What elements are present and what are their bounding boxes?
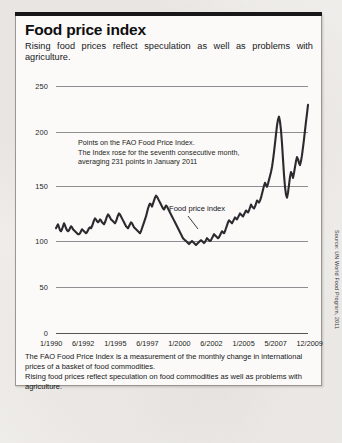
price-index-line-series [16, 14, 323, 386]
food-price-index-chart: 250 200 150 100 50 0 Points on the FAO F… [16, 14, 323, 386]
x-tick-5: 6/2002 [200, 339, 222, 348]
source-credit: Source: UN World Food Program, 2011 [334, 230, 340, 329]
figure-card: Food price index Rising food prices refl… [15, 14, 322, 386]
x-tick-8: 12/2009 [297, 339, 323, 348]
footnote-line-3: Rising food prices reflect speculation o… [25, 372, 313, 382]
x-axis-labels: 1/1990 6/1992 1/1995 6/1997 1/2000 6/200… [40, 339, 323, 348]
title-rule [15, 12, 322, 16]
x-tick-2: 1/1995 [104, 339, 126, 348]
figure-footnote: The FAO Food Price Index is a measuremen… [25, 352, 313, 392]
x-tick-3: 6/1997 [136, 339, 158, 348]
x-tick-7: 5/2007 [264, 339, 286, 348]
footnote-line-2: prices of a basket of food commodities. [25, 362, 313, 372]
page-background: Food price index Rising food prices refl… [0, 0, 342, 443]
x-tick-4: 1/2000 [168, 339, 190, 348]
footnote-line-4: agriculture. [25, 382, 313, 392]
x-tick-1: 6/1992 [72, 339, 94, 348]
footnote-line-1: The FAO Food Price Index is a measuremen… [25, 352, 313, 362]
x-tick-6: 1/2005 [232, 339, 254, 348]
x-tick-0: 1/1990 [40, 339, 62, 348]
